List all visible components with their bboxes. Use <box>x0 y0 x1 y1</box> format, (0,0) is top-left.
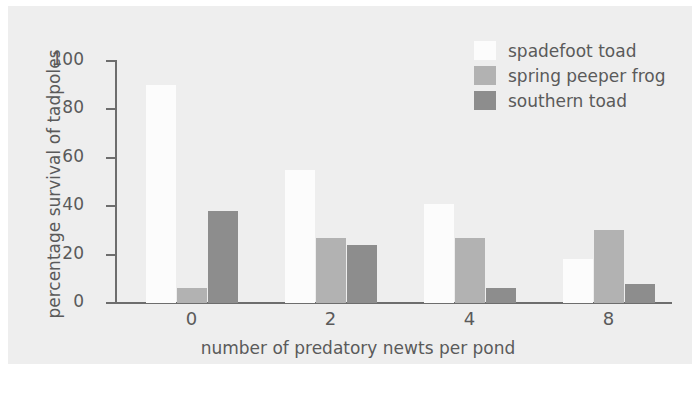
legend-label-spadefoot-toad: spadefoot toad <box>508 41 636 61</box>
x-tick-label-8: 8 <box>549 308 669 329</box>
bar-spadefoot-toad-0 <box>146 85 176 303</box>
y-tick-0 <box>106 302 116 304</box>
y-tick-20 <box>106 254 116 256</box>
legend-item-southern-toad[interactable]: southern toad <box>474 88 665 113</box>
y-tick-80 <box>106 108 116 110</box>
legend-swatch-spadefoot-toad <box>474 41 496 60</box>
y-axis-title: percentage survival of tadpoles <box>44 34 64 334</box>
y-tick-40 <box>106 205 116 207</box>
legend-swatch-spring-peeper-frog <box>474 66 496 85</box>
y-tick-label-20: 20 <box>24 245 84 262</box>
x-tick-label-2: 2 <box>271 308 391 329</box>
legend-item-spring-peeper-frog[interactable]: spring peeper frog <box>474 63 665 88</box>
chart-figure: percentage survival of tadpoles number o… <box>0 0 700 400</box>
bar-southern-toad-8 <box>625 284 655 303</box>
y-tick-100 <box>106 60 116 62</box>
y-tick-label-80: 80 <box>24 99 84 116</box>
plot-canvas: percentage survival of tadpoles number o… <box>8 6 692 364</box>
bar-spadefoot-toad-2 <box>285 170 315 303</box>
legend-label-southern-toad: southern toad <box>508 91 627 111</box>
bar-group-0 <box>146 61 238 303</box>
y-tick-label-100: 100 <box>24 51 84 68</box>
x-tick-label-4: 4 <box>410 308 530 329</box>
y-tick-label-60: 60 <box>24 148 84 165</box>
y-tick-label-0: 0 <box>24 293 84 310</box>
x-axis-title: number of predatory newts per pond <box>8 338 700 358</box>
bar-spadefoot-toad-4 <box>424 204 454 303</box>
bar-spring-peeper-frog-8 <box>594 230 624 303</box>
x-tick-label-0: 0 <box>132 308 252 329</box>
bar-southern-toad-2 <box>347 245 377 303</box>
bar-group-2 <box>285 61 377 303</box>
legend-label-spring-peeper-frog: spring peeper frog <box>508 66 665 86</box>
y-tick-60 <box>106 157 116 159</box>
bar-spadefoot-toad-8 <box>563 259 593 303</box>
legend-item-spadefoot-toad[interactable]: spadefoot toad <box>474 38 665 63</box>
y-tick-label-40: 40 <box>24 196 84 213</box>
bar-southern-toad-0 <box>208 211 238 303</box>
legend-swatch-southern-toad <box>474 91 496 110</box>
chart-legend: spadefoot toadspring peeper frogsouthern… <box>474 38 665 113</box>
bar-spring-peeper-frog-0 <box>177 288 207 303</box>
bar-spring-peeper-frog-4 <box>455 238 485 303</box>
bar-spring-peeper-frog-2 <box>316 238 346 303</box>
bar-southern-toad-4 <box>486 288 516 303</box>
